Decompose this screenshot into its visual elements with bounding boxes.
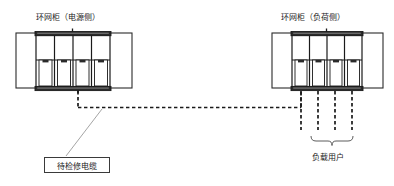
right-cabinet-lower-box-2: [313, 60, 325, 86]
cable-under-maintenance-label: 待检修电缆: [57, 160, 97, 171]
cable-under-maintenance-box: 待检修电缆: [44, 157, 110, 173]
right-cabinet-bottom-bar-inner: [293, 87, 361, 88]
left-cabinet-tab-3: [80, 60, 86, 62]
load-users-label: 负载用户: [312, 152, 344, 163]
left-cabinet-lower-box-4: [95, 60, 108, 86]
left-cabinet-lower-box-3: [76, 60, 89, 86]
left-cabinet: [16, 29, 132, 91]
right-cabinet-title: 环网柜（负荷侧）: [281, 12, 345, 23]
left-cabinet-lower-box-2: [58, 60, 71, 86]
right-cabinet-top-bar-inner: [293, 33, 361, 34]
right-cabinet-lower-box-4: [348, 60, 360, 86]
left-cabinet-tab-1: [43, 60, 49, 62]
left-cabinet-tab-2: [61, 60, 67, 62]
right-cabinet-tab-3: [333, 60, 339, 62]
cable-box-leader-line: [66, 109, 102, 156]
left-cabinet-bottom-bar-inner: [37, 87, 109, 88]
left-cabinet-lower-box-1: [39, 60, 52, 86]
cable-run-dashed: [78, 91, 301, 108]
right-cabinet-tab-1: [298, 60, 304, 62]
feeder-drops: [301, 91, 352, 130]
right-cabinet: [272, 29, 383, 91]
right-cabinet-tab-4: [351, 60, 357, 62]
right-cabinet-lower-box-1: [295, 60, 307, 86]
right-cabinet-lower-box-3: [330, 60, 342, 86]
left-cabinet-top-bar-inner: [37, 33, 109, 34]
diagram-canvas: 环网柜（电源侧） 环网柜（负荷侧） 负载用户 待检修电缆: [0, 0, 394, 186]
left-cabinet-title: 环网柜（电源侧）: [36, 12, 100, 23]
load-users-brace: [311, 136, 353, 146]
right-cabinet-tab-2: [316, 60, 322, 62]
left-cabinet-tab-4: [98, 60, 104, 62]
